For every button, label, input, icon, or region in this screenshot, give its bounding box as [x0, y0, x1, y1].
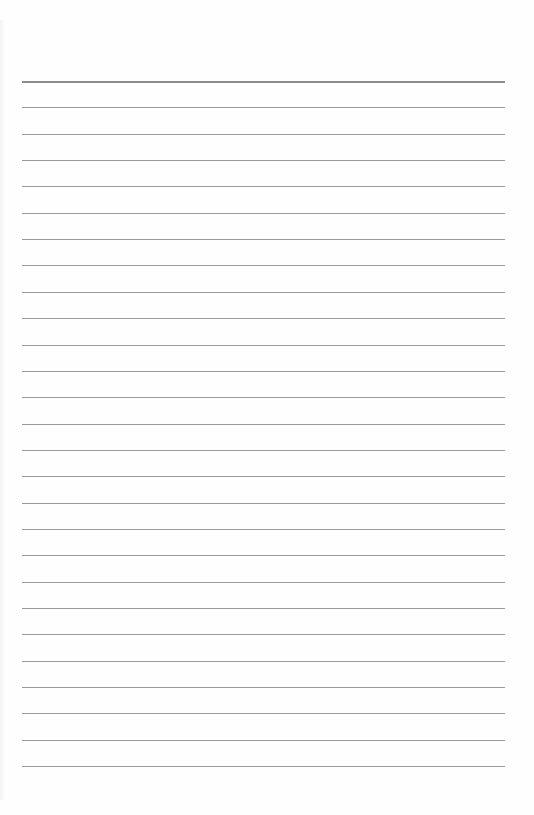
ruled-line: [22, 371, 505, 372]
ruled-line: [22, 318, 505, 319]
ruled-line: [22, 687, 505, 688]
ruled-line: [22, 107, 505, 108]
ruled-line: [22, 424, 505, 425]
ruled-line: [22, 503, 505, 504]
ruled-line: [22, 292, 505, 293]
ruled-line: [22, 265, 505, 266]
ruled-line: [22, 81, 505, 83]
ruled-line: [22, 555, 505, 556]
ruled-line: [22, 450, 505, 451]
ruled-line: [22, 186, 505, 187]
lined-paper-page: [0, 0, 534, 815]
ruled-line: [22, 529, 505, 530]
ruled-line: [22, 766, 505, 767]
ruled-line: [22, 160, 505, 161]
ruled-line: [22, 661, 505, 662]
ruled-line: [22, 608, 505, 609]
ruled-line: [22, 213, 505, 214]
ruled-line: [22, 134, 505, 135]
ruled-line: [22, 713, 505, 714]
ruled-line: [22, 582, 505, 583]
ruled-line: [22, 634, 505, 635]
ruled-line: [22, 740, 505, 741]
ruled-line: [22, 476, 505, 477]
ruled-line: [22, 397, 505, 398]
page-edge-shadow: [0, 20, 6, 800]
ruled-line: [22, 345, 505, 346]
ruled-line: [22, 239, 505, 240]
